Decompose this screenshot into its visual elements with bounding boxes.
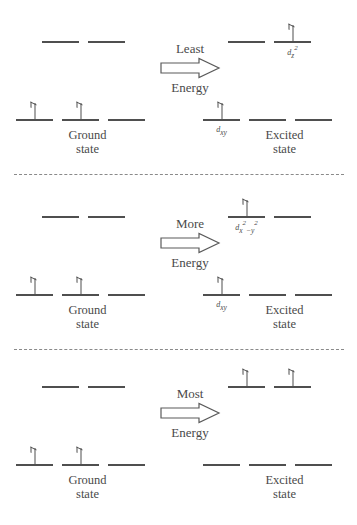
- orbital-line: [62, 294, 99, 296]
- orbital-line: [108, 294, 145, 296]
- excited-caption-line1: Excited: [265, 473, 303, 487]
- orbital-line: [249, 464, 286, 466]
- orbital-line: [88, 216, 125, 218]
- orbital-line: [228, 41, 265, 43]
- ground-lower-level-3: [16, 464, 145, 466]
- electron-up-arrow: [288, 25, 297, 41]
- electron-up-arrow: [30, 448, 39, 464]
- electron-up-arrow: [76, 278, 85, 294]
- excited-upper-level-2: dx2−y2: [228, 216, 311, 218]
- energy-label-top: More: [152, 216, 228, 231]
- orbital-line-dxy: dxy: [203, 119, 240, 121]
- orbital-label-dxy: dxy: [216, 123, 227, 137]
- orbital-energy-diagram: Ground state Least Energy dz2 dxy: [0, 0, 357, 525]
- ground-caption-line2: state: [40, 487, 135, 501]
- ground-caption-line1: Ground: [68, 303, 106, 317]
- orbital-line: [249, 294, 286, 296]
- excited-lower-level-1: dxy: [203, 119, 332, 121]
- orbital-line: [274, 216, 311, 218]
- orbital-line: [203, 464, 240, 466]
- orbital-line-dx2-y2: dx2−y2: [228, 216, 265, 218]
- orbital-line: [62, 464, 99, 466]
- orbital-line-dz2: dz2: [274, 41, 311, 43]
- right-arrow-icon: [159, 57, 221, 79]
- orbital-line: [108, 464, 145, 466]
- energy-label-bottom: Energy: [152, 80, 228, 95]
- electron-up-arrow: [30, 278, 39, 294]
- ground-caption-line1: Ground: [68, 128, 106, 142]
- orbital-line: [88, 386, 125, 388]
- orbital-line: [42, 41, 79, 43]
- orbital-line: [274, 386, 311, 388]
- orbital-label-dx2-y2: dx2−y2: [235, 220, 258, 234]
- excited-lower-level-2: dxy: [203, 294, 332, 296]
- orbital-line: [295, 464, 332, 466]
- excited-upper-level-3: [228, 386, 311, 388]
- energy-arrow-block-least: Least Energy: [152, 41, 228, 95]
- electron-up-arrow: [76, 103, 85, 119]
- electron-up-arrow: [242, 370, 251, 386]
- ground-upper-level-2: [42, 216, 125, 218]
- panel-most-energy: Ground state Most Energy Excited: [0, 350, 357, 525]
- orbital-line: [228, 386, 265, 388]
- ground-state-caption-3: Ground state: [40, 473, 135, 501]
- electron-up-arrow: [217, 278, 226, 294]
- excited-state-caption-1: Excited state: [237, 128, 332, 156]
- orbital-line: [62, 119, 99, 121]
- electron-up-arrow: [30, 103, 39, 119]
- energy-label-bottom: Energy: [152, 255, 228, 270]
- right-arrow-icon: [159, 402, 221, 424]
- energy-label-top: Least: [152, 41, 228, 56]
- electron-up-arrow: [76, 448, 85, 464]
- electron-up-arrow: [217, 103, 226, 119]
- panel-least-energy: Ground state Least Energy dz2 dxy: [0, 0, 357, 175]
- ground-caption-line2: state: [40, 317, 135, 331]
- excited-lower-level-3: [203, 464, 332, 466]
- excited-caption-line2: state: [237, 142, 332, 156]
- ground-upper-level-1: [42, 41, 125, 43]
- energy-label-bottom: Energy: [152, 425, 228, 440]
- orbital-line: [295, 119, 332, 121]
- excited-caption-line2: state: [237, 317, 332, 331]
- orbital-line: [88, 41, 125, 43]
- excited-state-caption-2: Excited state: [237, 303, 332, 331]
- energy-label-top: Most: [152, 386, 228, 401]
- orbital-line: [16, 464, 53, 466]
- excited-upper-level-1: dz2: [228, 41, 311, 43]
- orbital-line: [16, 294, 53, 296]
- orbital-line: [16, 119, 53, 121]
- electron-up-arrow: [242, 200, 251, 216]
- orbital-line-dxy: dxy: [203, 294, 240, 296]
- energy-arrow-block-more: More Energy: [152, 216, 228, 270]
- ground-upper-level-3: [42, 386, 125, 388]
- ground-caption-line2: state: [40, 142, 135, 156]
- ground-lower-level-1: [16, 119, 145, 121]
- ground-caption-line1: Ground: [68, 473, 106, 487]
- excited-caption-line2: state: [237, 487, 332, 501]
- orbital-line: [108, 119, 145, 121]
- orbital-label-dxy: dxy: [216, 298, 227, 312]
- right-arrow-icon: [159, 232, 221, 254]
- excited-state-caption-3: Excited state: [237, 473, 332, 501]
- orbital-line: [42, 386, 79, 388]
- excited-caption-line1: Excited: [265, 303, 303, 317]
- orbital-line: [249, 119, 286, 121]
- excited-caption-line1: Excited: [265, 128, 303, 142]
- energy-arrow-block-most: Most Energy: [152, 386, 228, 440]
- orbital-line: [42, 216, 79, 218]
- electron-up-arrow: [288, 370, 297, 386]
- ground-state-caption-1: Ground state: [40, 128, 135, 156]
- orbital-label-dz2: dz2: [287, 45, 297, 59]
- ground-lower-level-2: [16, 294, 145, 296]
- panel-more-energy: Ground state More Energy dx2−y2 dxy: [0, 175, 357, 350]
- orbital-line: [295, 294, 332, 296]
- ground-state-caption-2: Ground state: [40, 303, 135, 331]
